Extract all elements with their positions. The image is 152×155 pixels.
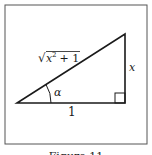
figure-caption: Figure 11 <box>49 150 104 155</box>
hypotenuse-rest: + 1 <box>56 52 79 65</box>
adjacent-side-label: 1 <box>68 105 76 119</box>
sqrt-sign: √ <box>38 51 46 65</box>
opposite-side-label: x <box>129 61 136 74</box>
hypotenuse-label: √ x 2 + 1 <box>38 51 80 65</box>
angle-alpha-label: α <box>54 86 62 99</box>
right-triangle <box>17 34 125 103</box>
right-angle-marker <box>115 93 125 103</box>
triangle-diagram: α 1 x √ x 2 + 1 Figure 11 <box>0 0 152 155</box>
angle-arc <box>46 85 51 104</box>
